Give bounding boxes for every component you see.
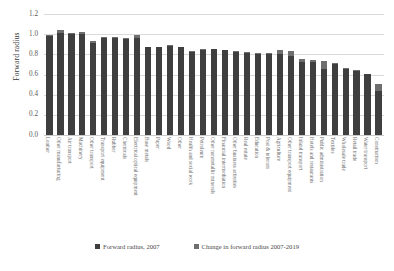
x-axis-category-label: Post & telecom — [265, 137, 271, 169]
bar-segment-change-2007-2019 — [332, 63, 338, 64]
bar-segment-forward-radius-2007 — [189, 51, 195, 135]
x-axis-category-label: Paper — [155, 137, 161, 149]
bar-segment-forward-radius-2007 — [343, 69, 349, 135]
bar-column — [134, 14, 140, 135]
x-axis-category-label: Other business activities — [232, 137, 238, 188]
x-axis-category-label: Agriculture — [276, 137, 282, 161]
bar-segment-forward-radius-2007 — [364, 74, 370, 136]
bar-segment-change-2007-2019 — [233, 51, 239, 52]
x-axis-category-label: Education — [254, 137, 260, 158]
y-axis-tick-label: 0.6 — [14, 71, 38, 78]
x-axis-category-label: Petroleum — [199, 137, 205, 158]
x-axis-category-label: Wood — [166, 137, 172, 149]
bar-column — [277, 14, 283, 135]
x-axis-category-label: Wholesale trade — [341, 137, 347, 171]
y-axis-tick-label: 0.2 — [14, 111, 38, 118]
bar-segment-forward-radius-2007 — [68, 34, 74, 135]
bar-segment-change-2007-2019 — [288, 51, 294, 56]
bar-segment-change-2007-2019 — [310, 60, 316, 62]
bar-column — [375, 14, 381, 135]
bar-column — [167, 14, 173, 135]
x-axis-category-label: Air transport — [67, 137, 73, 164]
bar-segment-forward-radius-2007 — [46, 36, 52, 135]
x-axis-category-label: Other nonmetallic minerals — [210, 137, 216, 194]
bar-column — [211, 14, 217, 135]
bar-segment-forward-radius-2007 — [222, 50, 228, 135]
bar-column — [299, 14, 305, 135]
bar-column — [343, 14, 349, 135]
bar-segment-forward-radius-2007 — [332, 64, 338, 135]
bar-column — [156, 14, 162, 135]
legend-label: Change in forward radius 2007-2019 — [202, 243, 299, 250]
bar-segment-change-2007-2019 — [244, 52, 250, 53]
bar-segment-forward-radius-2007 — [200, 50, 206, 135]
bar-segment-change-2007-2019 — [353, 70, 359, 71]
bar-segment-change-2007-2019 — [79, 32, 85, 34]
bar-column — [178, 14, 184, 135]
x-axis-category-label: Leather — [45, 137, 51, 153]
bar-segment-forward-radius-2007 — [244, 53, 250, 135]
bar-column — [90, 14, 96, 135]
x-axis-category-label: Other transport equipment — [287, 137, 293, 192]
bar-segment-forward-radius-2007 — [266, 54, 272, 135]
bar-segment-forward-radius-2007 — [277, 54, 283, 135]
bar-segment-forward-radius-2007 — [123, 39, 129, 135]
legend-item[interactable]: Forward radius, 2007 — [95, 243, 160, 250]
bar-column — [79, 14, 85, 135]
gridline — [44, 135, 384, 136]
x-axis-category-label: Financial intermediation — [221, 137, 227, 188]
bar-column — [233, 14, 239, 135]
bar-segment-change-2007-2019 — [375, 84, 381, 91]
x-axis-category-label: Retail trade — [352, 137, 358, 161]
bar-segment-forward-radius-2007 — [178, 47, 184, 135]
bar-segment-change-2007-2019 — [68, 33, 74, 34]
bar-segment-forward-radius-2007 — [375, 91, 381, 135]
y-axis-tick-label: 0.4 — [14, 91, 38, 98]
bar-column — [189, 14, 195, 135]
chart-legend: Forward radius, 2007Change in forward ra… — [0, 243, 394, 250]
bar-segment-change-2007-2019 — [57, 30, 63, 33]
x-axis-category-label: Machinery — [78, 137, 84, 160]
y-axis-tick-label: 1.0 — [14, 31, 38, 38]
bar-segment-forward-radius-2007 — [156, 47, 162, 135]
x-axis-category-label: Chemicals — [122, 137, 128, 159]
x-axis-category-label: Construction — [374, 137, 380, 164]
x-axis-category-labels: LeatherOther manufacturingAir transportM… — [44, 137, 384, 225]
x-axis-category-label: Public administration — [319, 137, 325, 182]
bar-segment-forward-radius-2007 — [299, 62, 305, 135]
bar-column — [222, 14, 228, 135]
bar-column — [321, 14, 327, 135]
bar-segment-forward-radius-2007 — [353, 71, 359, 135]
bar-segment-forward-radius-2007 — [321, 69, 327, 135]
x-axis-category-label: Base metals — [144, 137, 150, 162]
x-axis-category-label: Rubber — [111, 137, 117, 152]
bar-segment-forward-radius-2007 — [167, 46, 173, 135]
bar-segment-forward-radius-2007 — [145, 47, 151, 135]
bar-column — [46, 14, 52, 135]
x-axis-category-label: Real estate — [243, 137, 249, 160]
x-axis-category-label: Other — [177, 137, 183, 149]
bar-segment-forward-radius-2007 — [79, 34, 85, 135]
bar-column — [353, 14, 359, 135]
bar-segment-change-2007-2019 — [255, 53, 261, 54]
bar-segment-change-2007-2019 — [167, 45, 173, 46]
bar-segment-change-2007-2019 — [189, 51, 195, 52]
bar-column — [145, 14, 151, 135]
bar-series-group — [44, 14, 384, 135]
x-axis-category-label: Electrical optical equipment — [133, 137, 139, 196]
bar-segment-forward-radius-2007 — [101, 38, 107, 135]
bar-column — [200, 14, 206, 135]
bar-segment-forward-radius-2007 — [90, 41, 96, 135]
bar-segment-change-2007-2019 — [112, 37, 118, 38]
y-axis-tick-label: 0.0 — [14, 132, 38, 139]
x-axis-category-label: Transport equipment — [100, 137, 106, 180]
bar-segment-forward-radius-2007 — [211, 49, 217, 135]
bar-column — [112, 14, 118, 135]
bar-column — [310, 14, 316, 135]
bar-segment-change-2007-2019 — [46, 35, 52, 36]
bar-column — [123, 14, 129, 135]
bar-column — [288, 14, 294, 135]
bar-segment-forward-radius-2007 — [288, 56, 294, 135]
bar-segment-change-2007-2019 — [90, 41, 96, 43]
legend-item[interactable]: Change in forward radius 2007-2019 — [194, 243, 299, 250]
